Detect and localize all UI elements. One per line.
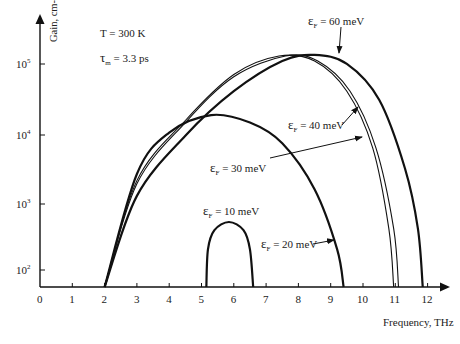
x-tick-9: 9 (328, 293, 334, 305)
x-axis-label: Frequency, THz (383, 316, 454, 328)
label-10mev: εF = 10 meV (203, 203, 259, 220)
x-tick-8: 8 (295, 293, 301, 305)
x-tick-6: 6 (231, 293, 237, 305)
x-tick-2: 2 (102, 293, 108, 305)
temperature-annotation: T = 300 K (100, 27, 145, 39)
x-tick-1: 1 (69, 293, 75, 305)
x-tick-10: 10 (357, 293, 368, 305)
label-20mev: εF = 20 meV (261, 236, 317, 253)
y-axis (36, 14, 46, 287)
label-30mev: εF = 30 meV (210, 160, 266, 177)
x-tick-4: 4 (166, 293, 172, 305)
y-tick-1e2: 102 (16, 263, 31, 276)
tau-annotation: τm = 3.3 ps (100, 50, 149, 67)
y-tick-1e5: 105 (16, 57, 31, 70)
y-tick-1e4: 104 (16, 128, 31, 141)
x-axis (40, 283, 450, 292)
y-tick-1e3: 103 (16, 197, 31, 210)
x-tick-0: 0 (37, 293, 43, 305)
label-40mev: εF = 40 meV (288, 117, 344, 134)
x-tick-5: 5 (199, 293, 205, 305)
x-tick-11: 11 (389, 293, 400, 305)
x-tick-3: 3 (134, 293, 140, 305)
y-axis-label: Gain, cm-1 (48, 0, 59, 42)
curve--20-mev (105, 115, 344, 287)
curve--10-mev (206, 222, 253, 287)
x-tick-7: 7 (263, 293, 269, 305)
label-60mev: εF = 60 meV (308, 13, 364, 30)
x-tick-12: 12 (422, 293, 433, 305)
